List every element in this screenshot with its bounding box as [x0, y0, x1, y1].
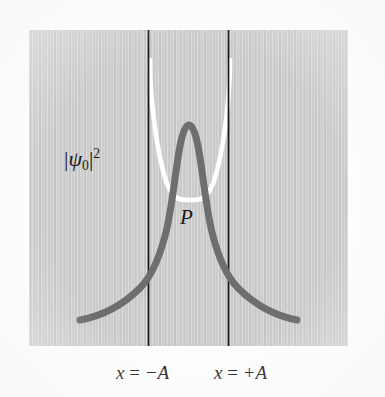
x-minus-a-value: −A [145, 362, 169, 383]
x-plus-a-value: +A [243, 362, 267, 383]
psi-symbol: ψ [68, 146, 82, 171]
x-minus-a-equals: = [129, 362, 140, 383]
potential-label: P [180, 207, 193, 228]
psi-exponent: 2 [93, 146, 100, 161]
x-minus-a-label: x = −A [116, 363, 169, 382]
figure-container: |ψ0|2 P x = −A x = +A [0, 0, 385, 397]
x-plus-a-equals: = [227, 362, 238, 383]
plot-svg [0, 0, 385, 397]
wavefunction-label: |ψ0|2 [64, 147, 100, 173]
psi-subscript: 0 [82, 158, 89, 173]
x-plus-a-label: x = +A [214, 363, 267, 382]
